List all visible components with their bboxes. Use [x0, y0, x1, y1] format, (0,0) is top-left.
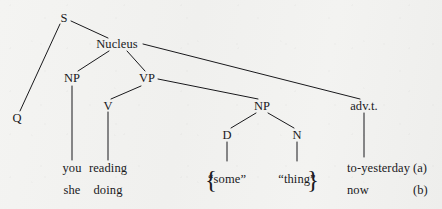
terminal-b-now: now: [347, 184, 369, 197]
curly-brace-close-icon: }: [307, 167, 319, 192]
tree-edge-vp-v: [111, 86, 141, 99]
terminal-a-reading: reading: [89, 162, 127, 175]
tree-node-d: D: [222, 129, 231, 142]
tree-edge-vp-np2: [158, 79, 258, 99]
syntax-tree-figure: SNucleusNPVPVNPadv.t.DNQ youreadingto-ye…: [0, 0, 442, 209]
curly-brace-open-icon: {: [205, 167, 217, 192]
terminal-a-you: you: [62, 162, 81, 175]
alternation-label-b: (b): [413, 183, 428, 198]
tree-edge-nucleus-advt: [143, 44, 360, 99]
tree-node-n: N: [292, 129, 301, 142]
terminal-b-doing: doing: [94, 184, 123, 197]
tree-node-q: Q: [12, 112, 21, 125]
tree-edge-np2-d: [231, 113, 256, 128]
tree-node-np1: NP: [64, 72, 80, 85]
tree-node-s: S: [60, 12, 67, 25]
terminal-a-toyest: to-yesterday: [347, 162, 410, 175]
tree-node-v: V: [103, 100, 112, 113]
tree-node-advt: adv.t.: [350, 100, 378, 113]
terminal-b-she: she: [64, 184, 81, 197]
tree-edge-s-nucleus: [71, 21, 108, 38]
tree-edge-nucleus-vp: [127, 51, 145, 71]
alternation-label-a: (a): [413, 161, 427, 176]
tree-node-np2: NP: [254, 100, 270, 113]
tree-node-vp: VP: [139, 72, 155, 85]
tree-node-nucleus: Nucleus: [96, 38, 138, 51]
tree-edge-nucleus-np1: [78, 51, 109, 71]
tree-edge-s-q: [20, 24, 60, 111]
tree-edge-np2-n: [268, 113, 294, 128]
